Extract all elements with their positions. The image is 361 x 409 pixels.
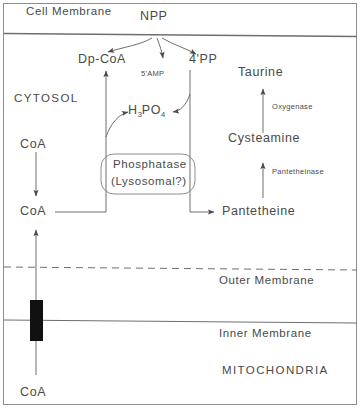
- arrow-npp-to-dpcoa: [108, 38, 152, 52]
- arrow-left-to-h3po4: [106, 112, 128, 137]
- mitochondrial-transporter: [30, 300, 43, 341]
- compartment-mitochondria: MITOCHONDRIA: [222, 365, 329, 377]
- metabolite-coa-top: CoA: [20, 138, 46, 151]
- metabolite-phosphoric-acid: H3PO4: [128, 104, 165, 119]
- metabolite-npp: NPP: [140, 10, 168, 23]
- diagram-artwork: [0, 0, 361, 409]
- outer-membrane-label: Outer Membrane: [219, 275, 314, 287]
- cell-membrane-line: [4, 34, 357, 37]
- metabolite-coa-bottom: CoA: [20, 386, 46, 399]
- compartment-cytosol: CYTOSOL: [14, 93, 79, 105]
- metabolite-pantetheine: Pantetheine: [222, 205, 295, 218]
- metabolite-taurine: Taurine: [238, 66, 283, 79]
- inner-membrane-line: [4, 320, 357, 323]
- metabolite-dp-coa: Dp-CoA: [78, 53, 126, 66]
- arrow-right-to-h3po4: [173, 94, 190, 112]
- enzyme-oxygenase: Oxygenase: [272, 103, 313, 111]
- inner-membrane-label: Inner Membrane: [219, 328, 312, 340]
- arrow-npp-to-amp: [157, 38, 163, 58]
- metabolite-5amp: 5'AMP: [141, 70, 164, 78]
- metabolite-4pp: 4'PP: [189, 53, 217, 66]
- metabolite-coa-mid: CoA: [20, 205, 46, 218]
- enzyme-pantetheinase: Pantetheinase: [272, 168, 324, 176]
- enzyme-phosphatase-line1: Phosphatase: [113, 159, 187, 171]
- enzyme-phosphatase-line2: (Lysosomal?): [111, 176, 187, 188]
- pathway-diagram: Cell Membrane NPP Dp-CoA 4'PP 5'AMP CYTO…: [0, 0, 361, 409]
- outer-membrane-line: [4, 267, 357, 270]
- metabolite-cysteamine: Cysteamine: [228, 132, 300, 145]
- cell-membrane-label: Cell Membrane: [26, 6, 112, 18]
